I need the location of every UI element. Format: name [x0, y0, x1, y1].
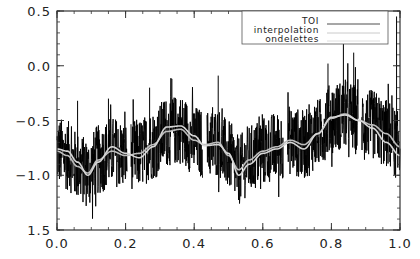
legend-label-ondelettes: ondelettes — [265, 34, 319, 44]
y-tick-label: −1.0 — [15, 168, 51, 183]
y-tick-label: 0.5 — [27, 4, 51, 19]
x-tick-label: 0.6 — [251, 236, 275, 251]
x-tick-label: 0.0 — [45, 236, 69, 251]
x-tick-label: 0.2 — [114, 236, 138, 251]
chart: 0.50.0−0.5−1.01.5 0.00.20.40.60.81.0 TOI… — [0, 0, 420, 259]
x-tick-label: 1.0 — [388, 236, 412, 251]
y-axis-labels: 0.50.0−0.5−1.01.5 — [15, 4, 51, 238]
x-axis-labels: 0.00.20.40.60.81.0 — [45, 236, 412, 251]
y-tick-label: 0.0 — [27, 59, 51, 74]
x-tick-label: 0.8 — [320, 236, 344, 251]
y-tick-label: −0.5 — [15, 114, 51, 129]
legend: TOI interpolation ondelettes — [242, 11, 388, 44]
x-tick-label: 0.4 — [182, 236, 206, 251]
series-toi — [57, 16, 400, 218]
